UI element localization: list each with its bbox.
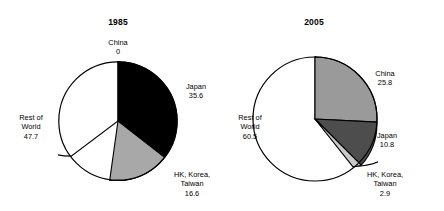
pie-label-1985-china-name: China [88, 38, 148, 47]
pie-label-2005-china-value: 25.8 [360, 78, 410, 87]
pie-label-2005-china: China 25.8 [360, 69, 410, 88]
pie-label-1985-rest-of-world: Rest of World 47.7 [4, 113, 58, 141]
pie-label-2005-hk-name-line2: Taiwan [354, 179, 416, 188]
pie-slice-1985-rest-of-world [58, 61, 118, 156]
pie-chart-figure: 1985 China 0 Japan 35.6 Rest of World 47… [0, 0, 444, 211]
pie-1985 [58, 61, 178, 181]
pie-label-1985-hk-name-line1: HK, Korea, [162, 170, 222, 179]
pie-label-1985-hk-value: 16.6 [162, 189, 222, 198]
pie-label-1985-china-value: 0 [88, 47, 148, 56]
pie-label-2005-japan-value: 10.8 [362, 140, 412, 149]
pie-label-2005-japan: Japan 10.8 [362, 131, 412, 150]
chart-title-2005: 2005 [284, 17, 344, 27]
chart-panel-1985: 1985 China 0 Japan 35.6 Rest of World 47… [0, 0, 222, 211]
pie-label-2005-rest-of-world: Rest of World 60.5 [224, 113, 276, 141]
pie-label-2005-hk-value: 2.9 [354, 189, 416, 198]
pie-label-1985-rest-of-world-name-line1: Rest of [4, 113, 58, 122]
pie-label-1985-china: China 0 [88, 38, 148, 57]
pie-label-2005-hk-korea-taiwan: HK, Korea, Taiwan 2.9 [354, 170, 416, 198]
pie-label-1985-japan: Japan 35.6 [172, 82, 220, 101]
pie-label-1985-hk-name-line2: Taiwan [162, 179, 222, 188]
pie-label-2005-china-name: China [360, 69, 410, 78]
pie-label-2005-japan-name: Japan [362, 131, 412, 140]
pie-label-1985-rest-of-world-name-line2: World [4, 122, 58, 131]
pie-label-2005-rest-of-world-name-line2: World [224, 122, 276, 131]
chart-panel-2005: 2005 China 25.8 Japan 10.8 Rest of World [222, 0, 444, 211]
pie-label-1985-rest-of-world-value: 47.7 [4, 132, 58, 141]
pie-label-1985-japan-name: Japan [172, 82, 220, 91]
pie-label-2005-rest-of-world-name-line1: Rest of [224, 113, 276, 122]
pie-label-2005-hk-name-line1: HK, Korea, [354, 170, 416, 179]
pie-label-1985-hk-korea-taiwan: HK, Korea, Taiwan 16.6 [162, 170, 222, 198]
chart-title-1985: 1985 [88, 17, 148, 27]
pie-label-1985-japan-value: 35.6 [172, 91, 220, 100]
pie-label-2005-rest-of-world-value: 60.5 [224, 132, 276, 141]
